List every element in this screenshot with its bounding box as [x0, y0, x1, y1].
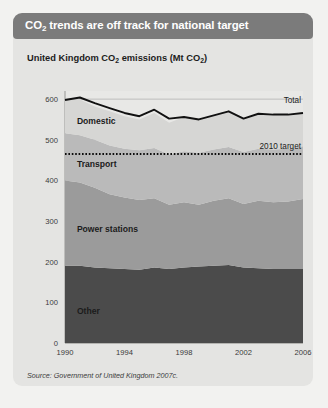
header-title-prefix: CO [25, 19, 42, 31]
x-axis-tick-label: 1998 [176, 348, 193, 357]
x-axis-tick-label: 2002 [235, 348, 252, 357]
card-header-bar: CO2 trends are off track for national ta… [13, 13, 313, 39]
source-note: Source: Government of United Kingdom 200… [27, 371, 178, 380]
x-axis-tick-label: 2006 [295, 348, 312, 357]
stacked-area-chart: 0100200300400500600DomesticTransportPowe… [13, 71, 313, 361]
x-axis-tick-label: 1994 [116, 348, 133, 357]
y-axis-tick-label: 200 [45, 258, 58, 267]
y-axis-tick-label: 0 [54, 339, 58, 348]
y-axis-tick-label: 100 [45, 298, 58, 307]
y-axis-tick-label: 300 [45, 217, 58, 226]
chart-card: CO2 trends are off track for national ta… [13, 13, 313, 386]
chart-title-suffix: ) [204, 53, 207, 63]
y-axis-tick-label: 500 [45, 136, 58, 145]
band-label: Other [77, 306, 101, 316]
target-line-label: 2010 target [260, 142, 302, 151]
band-label: Domestic [77, 116, 116, 126]
chart-title-prefix: United Kingdom CO [27, 53, 115, 63]
band-label: Transport [77, 159, 117, 169]
chart-title-mid: emissions (Mt CO [119, 53, 200, 63]
area-series-other [65, 265, 303, 343]
y-axis-tick-label: 600 [45, 95, 58, 104]
x-axis-tick-label: 1990 [57, 348, 74, 357]
band-label: Power stations [77, 224, 138, 234]
chart-title: United Kingdom CO2 emissions (Mt CO2) [27, 53, 207, 64]
y-axis-tick-label: 400 [45, 176, 58, 185]
chart-plot-area: 0100200300400500600DomesticTransportPowe… [13, 71, 313, 361]
card-header-title: CO2 trends are off track for national ta… [13, 19, 249, 33]
header-title-rest: trends are off track for national target [46, 19, 248, 31]
total-series-label: Total [284, 96, 301, 105]
